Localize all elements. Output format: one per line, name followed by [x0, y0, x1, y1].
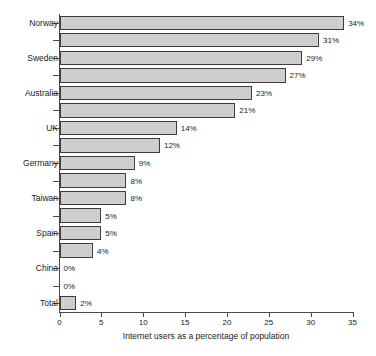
bar-value-label: 31% — [323, 36, 339, 45]
bar-value-label: 34% — [348, 18, 364, 27]
y-axis-tick-label: UK — [46, 123, 58, 133]
bar-value-label: 21% — [239, 106, 255, 115]
y-axis-tick — [53, 286, 59, 287]
y-axis-tick-label: Spain — [36, 228, 58, 238]
y-axis-tick-label: Taiwan — [32, 193, 58, 203]
bar — [60, 243, 93, 257]
y-axis-tick — [53, 181, 59, 182]
bar-value-label: 9% — [139, 159, 151, 168]
x-axis-line — [59, 312, 353, 313]
bar — [60, 33, 320, 47]
x-axis-tick — [311, 312, 312, 317]
x-axis-tick — [353, 312, 354, 317]
bar — [60, 103, 236, 117]
y-axis-tick-label: Germany — [23, 158, 58, 168]
bar-value-label: 4% — [97, 246, 109, 255]
bar — [60, 173, 127, 187]
bar-value-label: 5% — [105, 229, 117, 238]
y-axis-tick — [53, 75, 59, 76]
bar — [60, 51, 303, 65]
x-axis-tick-label: 30 — [306, 318, 315, 327]
bar-value-label: 5% — [105, 211, 117, 220]
x-axis-tick-label: 0 — [57, 318, 61, 327]
bar — [60, 191, 127, 205]
bar — [60, 208, 102, 222]
y-axis-tick-label: Norway — [29, 18, 58, 28]
bar — [60, 296, 77, 310]
bar — [60, 16, 345, 30]
bar-value-label: 12% — [164, 141, 180, 150]
bar — [60, 138, 160, 152]
y-axis-tick — [53, 40, 59, 41]
y-axis-tick-label: Total — [40, 298, 58, 308]
y-axis-tick-label: Sweden — [27, 53, 58, 63]
x-axis-title: Internet users as a percentage of popula… — [59, 331, 353, 341]
bar-chart: 05101520253035Norway34%31%Sweden29%27%Au… — [0, 0, 376, 356]
plot-area: 05101520253035Norway34%31%Sweden29%27%Au… — [0, 0, 376, 356]
x-axis-tick-label: 20 — [222, 318, 231, 327]
x-axis-tick-label: 5 — [99, 318, 103, 327]
x-axis-tick — [60, 312, 61, 317]
bar-value-label: 29% — [306, 53, 322, 62]
x-axis-tick-label: 25 — [264, 318, 273, 327]
bar — [60, 68, 286, 82]
bar — [60, 226, 102, 240]
x-axis-tick-label: 10 — [139, 318, 148, 327]
y-axis-tick — [53, 110, 59, 111]
x-axis-tick — [143, 312, 144, 317]
y-axis-tick — [53, 251, 59, 252]
x-axis-tick-label: 35 — [348, 318, 357, 327]
bar — [60, 86, 253, 100]
y-axis-tick-label: China — [36, 263, 58, 273]
bar-value-label: 8% — [130, 176, 142, 185]
y-axis-tick-label: Australia — [25, 88, 58, 98]
bar-value-label: 2% — [80, 299, 92, 308]
bar-value-label: 23% — [256, 88, 272, 97]
bar-value-label: 0% — [64, 264, 76, 273]
bar-value-label: 8% — [130, 194, 142, 203]
bar-value-label: 0% — [64, 281, 76, 290]
bar — [60, 156, 135, 170]
x-axis-tick — [101, 312, 102, 317]
x-axis-tick — [269, 312, 270, 317]
x-axis-tick — [185, 312, 186, 317]
x-axis-tick — [227, 312, 228, 317]
bar-value-label: 27% — [290, 71, 306, 80]
x-axis-tick-label: 15 — [181, 318, 190, 327]
y-axis-tick — [53, 145, 59, 146]
bar — [60, 121, 177, 135]
y-axis-tick — [53, 216, 59, 217]
bar-value-label: 14% — [181, 123, 197, 132]
